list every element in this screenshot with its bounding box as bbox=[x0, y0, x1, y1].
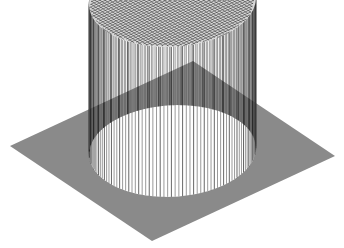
surface-plot-figure bbox=[0, 0, 344, 248]
mesh-surface-plot bbox=[0, 0, 344, 248]
